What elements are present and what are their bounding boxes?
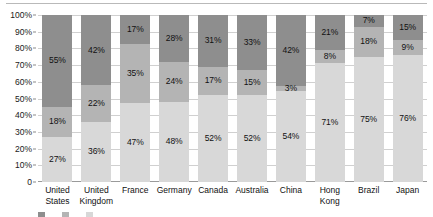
stacked-bar[interactable]: 7%18%75%: [354, 15, 384, 182]
bar-segment-value: 54%: [283, 132, 300, 141]
bar-segment[interactable]: 55%: [42, 15, 72, 107]
x-axis-label: France: [116, 185, 155, 209]
bar-segment[interactable]: 33%: [237, 15, 267, 70]
bar-slot: 55%18%27%: [38, 15, 77, 182]
bar-segment[interactable]: 54%: [276, 91, 306, 182]
legend-item[interactable]: [38, 211, 48, 217]
bar-segment[interactable]: 42%: [81, 15, 111, 85]
bar-slot: 42%22%36%: [77, 15, 116, 182]
bar-segment[interactable]: 22%: [81, 85, 111, 122]
bar-segment[interactable]: 27%: [42, 137, 72, 182]
bar-segment-value: 55%: [49, 56, 66, 65]
stacked-bar[interactable]: 42%3%54%: [276, 15, 306, 182]
bar-segment-value: 75%: [360, 115, 377, 124]
y-axis-tick-mark: [33, 115, 36, 116]
y-axis-tick-mark: [33, 31, 36, 32]
y-axis-tick-label: 70%: [15, 61, 32, 69]
y-axis-tick-mark: [33, 165, 36, 166]
bar-segment-value: 35%: [127, 69, 144, 78]
bar-segment[interactable]: 9%: [393, 40, 423, 55]
bar-segment-value: 47%: [127, 138, 144, 147]
bar-segment[interactable]: 36%: [81, 122, 111, 182]
x-axis-label: Canada: [194, 185, 233, 209]
bar-segment[interactable]: 17%: [120, 15, 150, 44]
bar-segment[interactable]: 15%: [393, 15, 423, 40]
y-axis-tick-mark: [33, 48, 36, 49]
bar-segment-value: 52%: [244, 134, 261, 143]
bar-segment-value: 15%: [244, 78, 261, 87]
stacked-bar[interactable]: 42%22%36%: [81, 15, 111, 182]
bar-segment[interactable]: 24%: [159, 62, 189, 102]
bar-segment[interactable]: 18%: [354, 27, 384, 57]
bar-segment-value: 28%: [166, 34, 183, 43]
x-axis-label: Brazil: [349, 185, 388, 209]
bar-segment-value: 33%: [244, 38, 261, 47]
bar-segment-value: 48%: [166, 137, 183, 146]
bar-slot: 42%3%54%: [271, 15, 310, 182]
bar-segment-value: 52%: [205, 134, 222, 143]
bar-segment[interactable]: 15%: [237, 70, 267, 95]
bar-segment-value: 24%: [166, 77, 183, 86]
y-axis-tick-mark: [33, 15, 36, 16]
bar-segment[interactable]: 21%: [315, 15, 345, 50]
bar-segment[interactable]: 52%: [198, 95, 228, 182]
bar-segment[interactable]: 76%: [393, 55, 423, 182]
chart-legend: [38, 211, 427, 217]
bar-segment-value: 27%: [49, 155, 66, 164]
bar-segment[interactable]: 52%: [237, 95, 267, 182]
bar-segment[interactable]: 42%: [276, 15, 306, 86]
bar-segment[interactable]: 71%: [315, 63, 345, 182]
header-divider: [6, 3, 427, 4]
y-axis-tick-label: 80%: [15, 44, 32, 52]
bar-segment[interactable]: 48%: [159, 102, 189, 182]
bar-slot: 33%15%52%: [233, 15, 272, 182]
bar-slot: 21%8%71%: [310, 15, 349, 182]
bar-segment[interactable]: 75%: [354, 57, 384, 182]
bar-slot: 17%35%47%: [116, 15, 155, 182]
x-axis-label: Germany: [155, 185, 194, 209]
stacked-bar[interactable]: 17%35%47%: [120, 15, 150, 182]
bar-segment-value: 42%: [88, 46, 105, 55]
stacked-bar[interactable]: 28%24%48%: [159, 15, 189, 182]
legend-item[interactable]: [62, 211, 72, 217]
y-axis-tick-mark: [33, 65, 36, 66]
bar-segment[interactable]: 18%: [42, 107, 72, 137]
bar-segment-value: 76%: [399, 114, 416, 123]
stacked-bar[interactable]: 55%18%27%: [42, 15, 72, 182]
legend-swatch: [86, 212, 93, 217]
x-axis-labels: UnitedStatesUnitedKingdomFranceGermanyCa…: [38, 185, 427, 209]
x-axis-label: Australia: [233, 185, 272, 209]
y-axis: 100%90%80%70%60%50%40%30%20%10%0: [0, 15, 36, 182]
y-axis-tick-label: 30%: [15, 128, 32, 136]
legend-item[interactable]: [86, 211, 96, 217]
bar-segment-value: 36%: [88, 147, 105, 156]
bar-segment-value: 18%: [49, 117, 66, 126]
bar-segment[interactable]: 8%: [315, 50, 345, 63]
bar-segment-value: 31%: [205, 36, 222, 45]
bar-segment-value: 42%: [283, 46, 300, 55]
y-axis-tick-label: 40%: [15, 111, 32, 119]
stacked-bar[interactable]: 33%15%52%: [237, 15, 267, 182]
bar-group: 55%18%27%42%22%36%17%35%47%28%24%48%31%1…: [38, 15, 427, 182]
x-axis-label: HongKong: [310, 185, 349, 209]
y-axis-tick-label: 50%: [15, 95, 32, 103]
bar-segment[interactable]: 35%: [120, 44, 150, 103]
bar-segment[interactable]: 31%: [198, 15, 228, 67]
stacked-bar[interactable]: 31%17%52%: [198, 15, 228, 182]
bar-segment[interactable]: 17%: [198, 67, 228, 95]
bar-segment[interactable]: 7%: [354, 15, 384, 27]
stacked-bar[interactable]: 21%8%71%: [315, 15, 345, 182]
x-axis-label: UnitedStates: [38, 185, 77, 209]
stacked-bar[interactable]: 15%9%76%: [393, 15, 423, 182]
bar-segment-value: 8%: [324, 52, 336, 61]
bar-segment-value: 18%: [360, 37, 377, 46]
legend-swatch: [62, 212, 69, 217]
y-axis-tick-label: 90%: [15, 28, 32, 36]
bar-segment[interactable]: 28%: [159, 15, 189, 62]
bar-slot: 31%17%52%: [194, 15, 233, 182]
bar-segment-value: 21%: [321, 28, 338, 37]
x-axis-label: UnitedKingdom: [77, 185, 116, 209]
y-axis-tick-label: 20%: [15, 145, 32, 153]
chart-figure: 100%90%80%70%60%50%40%30%20%10%0 55%18%2…: [0, 0, 433, 217]
bar-segment[interactable]: 47%: [120, 103, 150, 182]
